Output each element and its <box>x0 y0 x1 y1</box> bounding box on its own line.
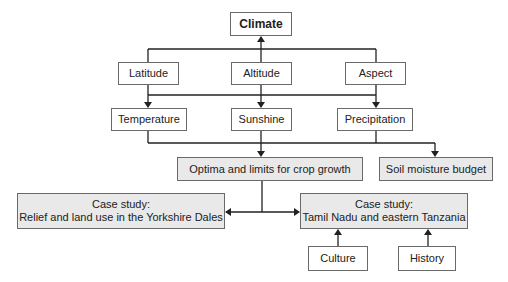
case-study-yorkshire-heading: Case study: <box>92 198 150 211</box>
case-study-tamil-node: Case study: Tamil Nadu and eastern Tanza… <box>300 193 468 229</box>
altitude-label: Altitude <box>243 67 280 80</box>
soil-moisture-label: Soil moisture budget <box>386 163 486 176</box>
case-study-tamil-heading: Case study: <box>355 198 413 211</box>
crop-growth-node: Optima and limits for crop growth <box>177 157 363 181</box>
history-label: History <box>410 252 444 265</box>
precipitation-label: Precipitation <box>345 113 406 126</box>
case-study-tamil-title: Tamil Nadu and eastern Tanzania <box>302 211 465 224</box>
case-study-yorkshire-title: Relief and land use in the Yorkshire Dal… <box>19 211 223 224</box>
precipitation-node: Precipitation <box>337 108 413 131</box>
climate-node: Climate <box>230 12 292 36</box>
culture-node: Culture <box>308 246 368 271</box>
climate-label: Climate <box>239 18 282 31</box>
culture-label: Culture <box>320 252 355 265</box>
sunshine-label: Sunshine <box>239 113 285 126</box>
case-study-yorkshire-node: Case study: Relief and land use in the Y… <box>17 193 225 229</box>
history-node: History <box>398 246 456 271</box>
aspect-node: Aspect <box>345 62 406 85</box>
latitude-label: Latitude <box>129 67 168 80</box>
soil-moisture-node: Soil moisture budget <box>379 157 493 181</box>
altitude-node: Altitude <box>231 62 292 85</box>
connectors <box>0 0 508 282</box>
crop-growth-label: Optima and limits for crop growth <box>189 163 350 176</box>
temperature-label: Temperature <box>118 113 180 126</box>
latitude-node: Latitude <box>118 62 179 85</box>
aspect-label: Aspect <box>359 67 393 80</box>
sunshine-node: Sunshine <box>231 108 292 131</box>
temperature-node: Temperature <box>111 108 187 131</box>
